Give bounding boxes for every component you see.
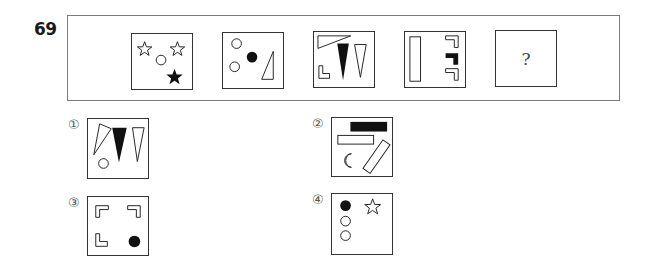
- outline-rectangle-icon: [338, 135, 374, 144]
- outline-L-shape-icon: [96, 234, 108, 247]
- outline-circle-icon: [230, 62, 240, 72]
- sequence-panel-1: [131, 33, 193, 90]
- option-3-figure: [88, 197, 148, 255]
- outline-circle-icon: [341, 231, 351, 241]
- outline-L-shape-icon: [319, 66, 330, 79]
- triangles-L-figure: [314, 32, 374, 87]
- filled-circle-icon: [247, 52, 258, 63]
- filled-triangle-icon: [337, 44, 349, 81]
- outline-star-icon: [137, 42, 151, 56]
- option-4-label[interactable]: ④: [312, 192, 324, 207]
- option-1-label[interactable]: ①: [68, 117, 80, 132]
- sequence-panel-3: [313, 31, 375, 88]
- stars-circle-figure: [132, 34, 192, 89]
- outline-circle-icon: [341, 216, 351, 226]
- option-1-figure: [88, 119, 148, 178]
- option-2[interactable]: [331, 117, 393, 177]
- outline-L-shape-icon: [446, 36, 459, 48]
- outline-circle-icon: [99, 159, 109, 169]
- outline-rectangle-icon: [410, 37, 421, 81]
- outline-triangle-icon: [355, 45, 367, 78]
- sequence-panel-5: ?: [495, 30, 557, 87]
- filled-circle-icon: [340, 200, 351, 211]
- outline-circle-icon: [232, 39, 242, 49]
- option-4-figure: [332, 194, 392, 254]
- filled-star-icon: [166, 69, 182, 84]
- rectangle-L-shapes-figure: [405, 32, 465, 87]
- option-3-label[interactable]: ③: [68, 195, 80, 210]
- filled-L-shape-icon: [446, 53, 459, 65]
- filled-circle-icon: [129, 236, 141, 248]
- question-mark: ?: [496, 31, 556, 86]
- filled-rectangle-icon: [350, 122, 387, 132]
- outline-right-triangle-icon: [262, 51, 274, 79]
- sequence-panel-2: [222, 32, 284, 89]
- outline-triangle-icon: [133, 128, 145, 162]
- outline-star-icon: [365, 199, 381, 214]
- outline-circle-icon: [156, 55, 166, 65]
- option-3[interactable]: [87, 196, 149, 256]
- filled-triangle-icon: [112, 128, 127, 163]
- outline-L-shape-icon: [96, 206, 109, 218]
- outline-L-shape-icon: [128, 206, 141, 218]
- outline-crescent-icon: [345, 154, 352, 168]
- option-2-label[interactable]: ②: [312, 116, 324, 131]
- outline-star-icon: [170, 42, 184, 56]
- question-number: 69: [34, 19, 57, 39]
- option-2-figure: [332, 118, 392, 176]
- outline-L-shape-icon: [446, 69, 459, 81]
- sequence-panel-4: [404, 31, 466, 88]
- outline-tilted-rectangle-icon: [363, 140, 390, 173]
- option-4[interactable]: [331, 193, 393, 255]
- circles-triangle-figure: [223, 33, 283, 88]
- outline-long-triangle-icon: [94, 124, 111, 155]
- option-1[interactable]: [87, 118, 149, 179]
